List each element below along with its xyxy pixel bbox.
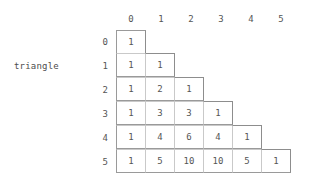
table-row: 1: [116, 30, 291, 54]
grid-cell[interactable]: 1: [116, 53, 146, 77]
column-header-1: 1: [146, 12, 176, 26]
grid-cell[interactable]: 1: [116, 101, 146, 125]
row-header-3: 3: [66, 102, 108, 126]
array-viewer: triangle 012345 012345 11112113311464115…: [0, 0, 312, 183]
grid-cell[interactable]: 1: [145, 53, 175, 77]
grid-cell[interactable]: 1: [232, 125, 262, 149]
table-row: 15101051: [116, 150, 291, 174]
table-row: 14641: [116, 126, 291, 150]
row-header-1: 1: [66, 54, 108, 78]
grid-cell[interactable]: 6: [174, 125, 204, 149]
grid-cell[interactable]: 10: [174, 149, 204, 173]
triangle-grid: 11112113311464115101051: [116, 30, 291, 174]
grid-cell[interactable]: 1: [116, 30, 146, 54]
grid-cell[interactable]: 5: [232, 149, 262, 173]
grid-cell[interactable]: 5: [145, 149, 175, 173]
row-header-2: 2: [66, 78, 108, 102]
grid-cell[interactable]: 2: [145, 77, 175, 101]
grid-cell[interactable]: 1: [116, 149, 146, 173]
row-header-5: 5: [66, 150, 108, 174]
grid-cell[interactable]: 3: [174, 101, 204, 125]
table-row: 11: [116, 54, 291, 78]
variable-name-label: triangle: [14, 60, 59, 72]
row-header-4: 4: [66, 126, 108, 150]
grid-cell[interactable]: 1: [116, 77, 146, 101]
grid-cell[interactable]: 1: [174, 77, 204, 101]
column-header-row: 012345: [116, 12, 296, 26]
grid-cell[interactable]: 1: [261, 149, 291, 173]
column-header-0: 0: [116, 12, 146, 26]
grid-cell[interactable]: 1: [203, 101, 233, 125]
column-header-5: 5: [266, 12, 296, 26]
table-row: 121: [116, 78, 291, 102]
row-header-column: 012345: [66, 30, 108, 174]
grid-cell[interactable]: 1: [116, 125, 146, 149]
grid-cell[interactable]: 10: [203, 149, 233, 173]
table-row: 1331: [116, 102, 291, 126]
grid-cell[interactable]: 4: [203, 125, 233, 149]
row-header-0: 0: [66, 30, 108, 54]
grid-cell[interactable]: 4: [145, 125, 175, 149]
column-header-2: 2: [176, 12, 206, 26]
column-header-3: 3: [206, 12, 236, 26]
column-header-4: 4: [236, 12, 266, 26]
grid-cell[interactable]: 3: [145, 101, 175, 125]
